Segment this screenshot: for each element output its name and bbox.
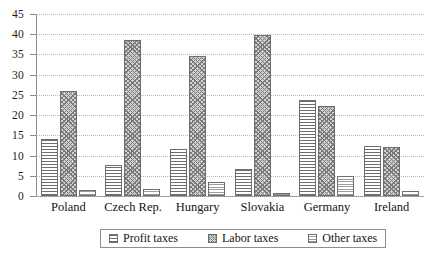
x-axis-label: Czech Rep. (104, 200, 162, 215)
bar-group (101, 14, 166, 196)
bar (189, 56, 206, 196)
bar (254, 35, 271, 196)
bar-group (165, 14, 230, 196)
y-tick-label-25: 25 (12, 89, 30, 101)
legend-item[interactable]: Other taxes (308, 231, 377, 246)
bar (41, 139, 58, 196)
bar (273, 193, 290, 196)
plot-area (36, 14, 424, 196)
y-tick-label-20: 20 (12, 109, 30, 121)
bar (105, 165, 122, 196)
bar (208, 182, 225, 196)
bar (79, 190, 96, 196)
y-tick-label-35: 35 (12, 48, 30, 60)
bar-group (230, 14, 295, 196)
bar (124, 40, 141, 196)
x-axis-label: Ireland (374, 200, 409, 215)
y-tick-label-40: 40 (12, 28, 30, 40)
bar (402, 191, 419, 196)
bar (337, 176, 354, 196)
bar (60, 91, 77, 196)
bar-group (359, 14, 424, 196)
legend-swatch-icon (208, 234, 217, 243)
y-tick-label-10: 10 (12, 150, 30, 162)
bar-group (295, 14, 360, 196)
y-tick-0 (30, 196, 36, 197)
bar-chart: 051015202530354045 PolandCzech Rep.Hunga… (0, 0, 435, 265)
y-tick-label-0: 0 (18, 190, 30, 202)
gridline-0 (36, 196, 424, 197)
legend-label: Profit taxes (123, 231, 178, 246)
bar (318, 106, 335, 196)
bar (383, 147, 400, 196)
bar (143, 189, 160, 196)
legend-swatch-icon (308, 234, 317, 243)
legend-label: Labor taxes (222, 231, 278, 246)
bar (170, 149, 187, 196)
x-axis-label: Germany (304, 200, 351, 215)
bar (235, 169, 252, 197)
y-tick-label-5: 5 (18, 170, 30, 182)
legend-item[interactable]: Labor taxes (208, 231, 278, 246)
y-tick-label-30: 30 (12, 69, 30, 81)
y-tick-label-15: 15 (12, 129, 30, 141)
legend-label: Other taxes (322, 231, 377, 246)
x-axis-label: Slovakia (240, 200, 284, 215)
chart-legend: Profit taxesLabor taxesOther taxes (100, 229, 386, 248)
bar-group (36, 14, 101, 196)
x-axis-label: Hungary (176, 200, 220, 215)
legend-item[interactable]: Profit taxes (109, 231, 178, 246)
bar (299, 100, 316, 196)
legend-swatch-icon (109, 234, 118, 243)
y-tick-label-45: 45 (12, 8, 30, 20)
x-axis-label: Poland (51, 200, 86, 215)
bar (364, 146, 381, 196)
